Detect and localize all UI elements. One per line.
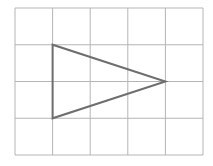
grid-triangle-diagram [0, 0, 213, 166]
square-grid [15, 8, 203, 155]
